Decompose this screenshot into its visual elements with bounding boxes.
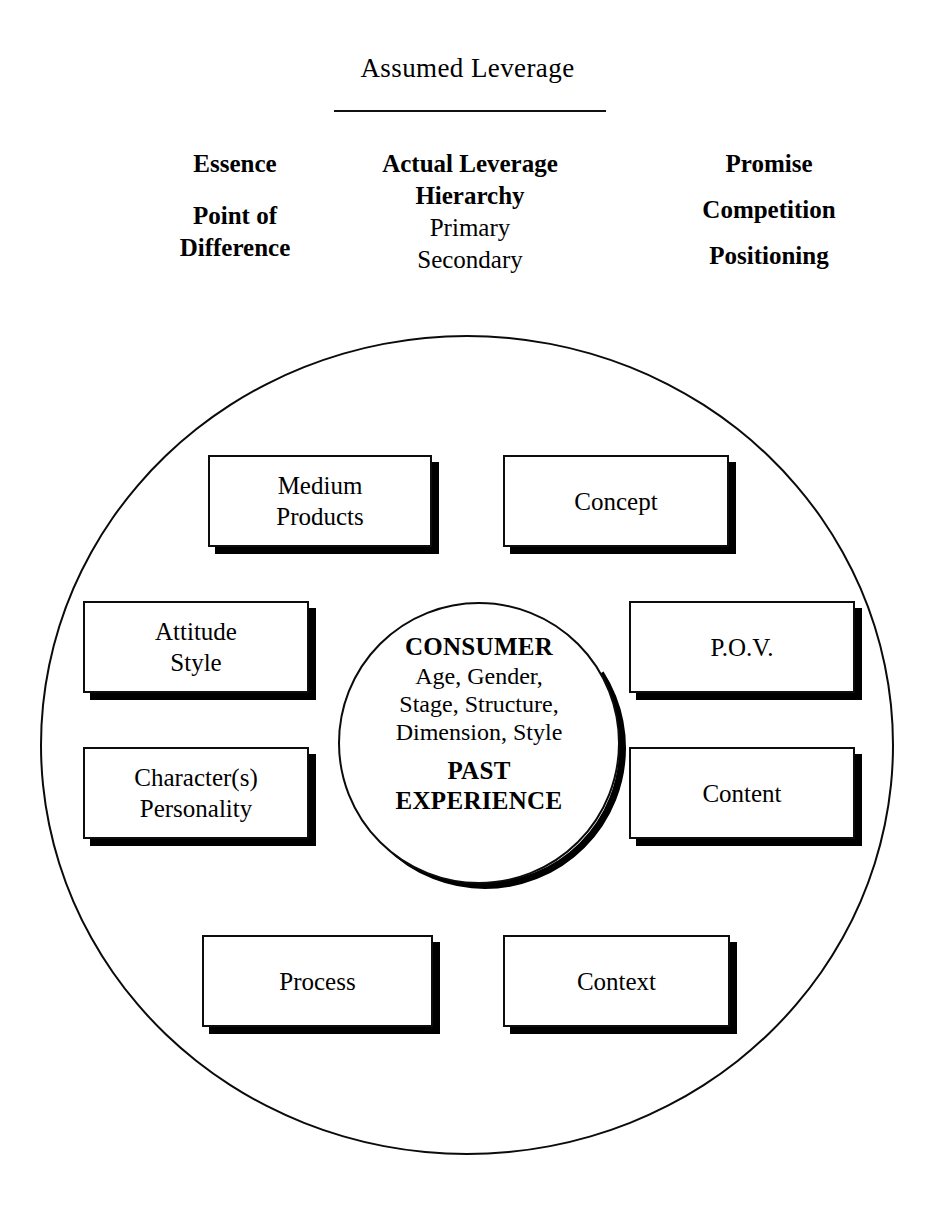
inner-circle-heading: CONSUMER bbox=[320, 632, 638, 662]
label-positioning: Positioning bbox=[640, 240, 898, 272]
box-medium-products[interactable]: Medium Products bbox=[208, 455, 432, 547]
header-area: Assumed Leverage Essence Point of Differ… bbox=[0, 0, 935, 330]
inner-circle-text: CONSUMER Age, Gender, Stage, Structure, … bbox=[320, 632, 638, 816]
box-content-label: Content bbox=[702, 778, 781, 809]
label-competition: Competition bbox=[640, 194, 898, 226]
header-divider-rule bbox=[334, 110, 606, 112]
inner-circle-body: Age, Gender, Stage, Structure, Dimension… bbox=[320, 662, 638, 746]
box-content[interactable]: Content bbox=[629, 747, 855, 839]
label-secondary: Secondary bbox=[341, 244, 599, 276]
box-attitude-style[interactable]: Attitude Style bbox=[83, 601, 309, 693]
box-concept[interactable]: Concept bbox=[503, 455, 729, 547]
box-medium-products-label: Medium Products bbox=[276, 470, 364, 532]
center-label-column: Actual Leverage Hierarchy Primary Second… bbox=[341, 148, 599, 276]
inner-circle-group: CONSUMER Age, Gender, Stage, Structure, … bbox=[338, 602, 630, 894]
spacer bbox=[110, 180, 360, 200]
box-attitude-style-label: Attitude Style bbox=[155, 616, 237, 678]
box-character-personality[interactable]: Character(s) Personality bbox=[83, 747, 309, 839]
box-process[interactable]: Process bbox=[202, 935, 433, 1027]
label-primary: Primary bbox=[341, 212, 599, 244]
label-point-of-difference: Point of Difference bbox=[110, 200, 360, 264]
label-promise: Promise bbox=[640, 148, 898, 180]
left-label-column: Essence Point of Difference bbox=[110, 148, 360, 264]
inner-circle-footer: PAST EXPERIENCE bbox=[320, 756, 638, 816]
box-pov-label: P.O.V. bbox=[711, 632, 774, 663]
box-context[interactable]: Context bbox=[503, 935, 730, 1027]
label-essence: Essence bbox=[110, 148, 360, 180]
box-pov[interactable]: P.O.V. bbox=[629, 601, 855, 693]
spacer bbox=[640, 180, 898, 194]
box-concept-label: Concept bbox=[574, 486, 657, 517]
spacer bbox=[640, 226, 898, 240]
diagram-page: Assumed Leverage Essence Point of Differ… bbox=[0, 0, 935, 1218]
box-process-label: Process bbox=[279, 966, 355, 997]
right-label-column: Promise Competition Positioning bbox=[640, 148, 898, 272]
box-context-label: Context bbox=[577, 966, 656, 997]
assumed-leverage-title: Assumed Leverage bbox=[0, 52, 935, 84]
box-character-personality-label: Character(s) Personality bbox=[134, 762, 258, 824]
label-actual-leverage-hierarchy: Actual Leverage Hierarchy bbox=[341, 148, 599, 212]
